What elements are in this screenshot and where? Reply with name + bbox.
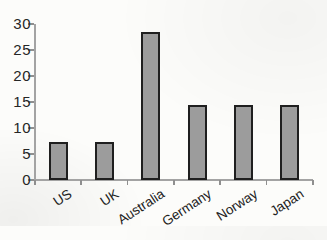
x-axis-tick <box>312 180 314 185</box>
x-axis-category-label: US <box>51 187 74 209</box>
bar-japan <box>280 105 299 180</box>
x-axis-category-label: Germany <box>160 187 214 226</box>
y-axis-tick-label: 5 <box>0 146 31 162</box>
y-axis-line <box>34 24 36 180</box>
x-axis-category-label: UK <box>98 187 121 209</box>
x-axis-tick <box>80 180 82 185</box>
x-axis-category-label: Australia <box>116 187 168 226</box>
y-axis-tick-label: 30 <box>0 16 31 32</box>
x-axis-tick <box>266 180 268 185</box>
x-axis-category-label: Norway <box>214 187 260 224</box>
x-axis-category-label: Japan <box>268 187 306 219</box>
x-axis-tick <box>219 180 221 185</box>
bar-germany <box>188 105 207 180</box>
x-axis-tick <box>127 180 129 185</box>
y-axis-tick-label: 0 <box>0 172 31 188</box>
bar-chart: 051015202530USUKAustraliaGermanyNorwayJa… <box>0 0 327 226</box>
x-axis-tick <box>173 180 175 185</box>
bar-uk <box>95 142 114 180</box>
y-axis-tick-label: 25 <box>0 42 31 58</box>
y-axis-tick-label: 15 <box>0 94 31 110</box>
bar-us <box>49 142 68 180</box>
x-axis-tick <box>34 180 36 185</box>
y-axis-tick-label: 10 <box>0 120 31 136</box>
y-axis-tick-label: 20 <box>0 68 31 84</box>
bar-australia <box>141 32 160 180</box>
bar-norway <box>234 105 253 180</box>
